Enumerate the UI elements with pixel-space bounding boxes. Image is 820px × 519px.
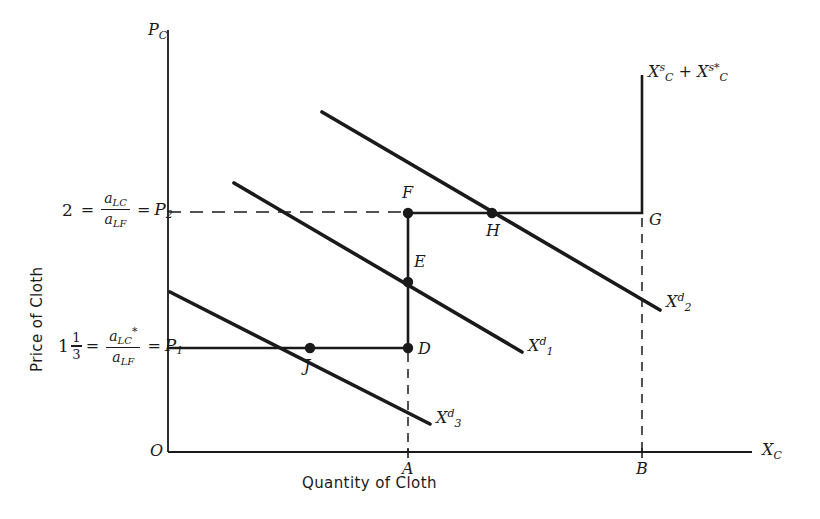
point-label-G: G	[649, 212, 662, 228]
p2-equals-2: =	[137, 200, 150, 219]
p1-fraction-part: 1 3	[71, 331, 82, 362]
p2-den-sub: LF	[113, 218, 127, 229]
x-axis-title: Quantity of Cloth	[302, 476, 437, 491]
point-D	[403, 343, 413, 353]
p1-den-sub: LF	[121, 356, 135, 367]
p1-den-base: a	[112, 349, 120, 365]
supply-label-sup2: s*	[708, 61, 719, 74]
x-axis-symbol-sub: C	[773, 449, 781, 462]
p2-symbol-base: P	[154, 199, 165, 219]
supply-label-sub2: C	[720, 71, 728, 84]
p1-value: 1 1 3	[58, 331, 82, 362]
p2-denominator: aLF	[102, 210, 130, 229]
price-level-p2-equation: 2 = aLC aLF = P2	[62, 190, 173, 229]
y-axis-symbol: PC	[148, 22, 167, 41]
supply-label-x1: X	[648, 62, 659, 81]
p1-num-sub: LC	[118, 335, 132, 346]
p1-symbol: P1	[165, 335, 183, 357]
economics-figure: Price of Cloth Quantity of Cloth PC XC O…	[0, 0, 820, 519]
p2-den-base: a	[105, 211, 113, 227]
demand-curve-x3d	[170, 292, 430, 424]
p1-equals-1: =	[86, 336, 99, 355]
origin-label: O	[150, 443, 163, 459]
p1-numerator: aLC*	[106, 325, 140, 347]
p1-num-base: a	[109, 328, 117, 344]
x1d-sub: 1	[546, 345, 553, 358]
demand-curve-label-x1d: Xd1	[528, 336, 553, 357]
point-label-H: H	[486, 223, 500, 239]
p1-denominator-small: 3	[72, 348, 80, 362]
p2-num-base: a	[104, 190, 112, 206]
point-J	[305, 343, 315, 353]
x-tick-label-a: A	[402, 461, 414, 477]
x3d-base: X	[436, 408, 447, 427]
p1-symbol-sub: 1	[176, 344, 183, 357]
supply-label-sub1: C	[665, 71, 673, 84]
supply-curve-label: XsC + Xs*C	[648, 62, 728, 83]
x1d-base: X	[528, 336, 539, 355]
p2-value: 2	[62, 200, 73, 220]
p1-whole: 1	[58, 336, 69, 356]
x3d-sub: 3	[454, 417, 461, 430]
p1-fraction: aLC* aLF	[106, 325, 140, 367]
demand-curve-label-x3d: Xd3	[436, 408, 461, 429]
y-axis-symbol-sub: C	[159, 29, 167, 42]
p2-fraction: aLC aLF	[101, 190, 130, 229]
point-label-J: J	[304, 358, 310, 374]
p2-equals-1: =	[81, 200, 94, 219]
x-tick-label-b: B	[636, 461, 648, 477]
supply-label-x2: X	[697, 62, 708, 81]
p1-num-star: *	[132, 325, 138, 338]
p2-numerator: aLC	[101, 190, 130, 209]
demand-curve-label-x2d: Xd2	[666, 292, 691, 313]
point-F	[403, 208, 413, 218]
p2-symbol: P2	[154, 199, 172, 221]
x2d-sub: 2	[684, 301, 691, 314]
p1-numerator-small: 1	[72, 331, 80, 345]
point-label-D: D	[418, 341, 431, 357]
p1-symbol-base: P	[165, 335, 176, 355]
price-level-p1-equation: 1 1 3 = aLC* aLF = P1	[58, 325, 183, 367]
x2d-base: X	[666, 292, 677, 311]
supply-label-plus: +	[679, 62, 692, 81]
point-label-F: F	[402, 185, 413, 201]
x-axis-symbol-base: X	[762, 440, 773, 459]
y-axis-symbol-base: P	[148, 20, 159, 39]
p2-symbol-sub: 2	[166, 208, 173, 221]
point-H	[487, 208, 497, 218]
point-E	[403, 277, 413, 287]
p2-num-sub: LC	[113, 197, 127, 208]
y-axis-title: Price of Cloth	[30, 267, 45, 372]
p1-equals-2: =	[147, 336, 160, 355]
demand-curve-x1d	[234, 183, 522, 352]
p1-denominator: aLF	[109, 348, 137, 367]
x-axis-symbol: XC	[762, 442, 782, 461]
point-label-E: E	[414, 254, 426, 270]
